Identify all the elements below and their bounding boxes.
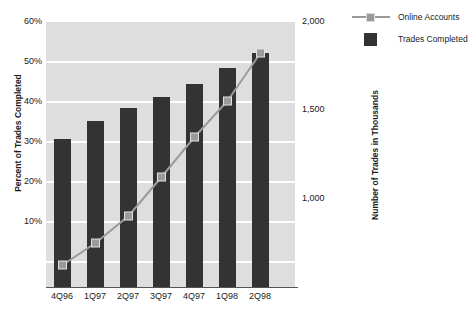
ytick-left-10: 10% [0,217,42,226]
chart-legend: Online Accounts Trades Completed [352,9,468,53]
line-markers [59,49,265,269]
y-axis-title-left: Percent of Trades Completed [13,63,23,203]
ytick-right-1500: 1,500 [302,105,348,114]
ytick-right-2000: 2,000 [302,17,348,26]
filled-square-icon [364,33,377,46]
legend-label-trades-completed: Trades Completed [398,34,468,44]
legend-key-line-marker [352,11,390,23]
online-accounts-line [46,22,295,287]
legend-key-bar-swatch [352,33,390,45]
ytick-left-60: 60% [0,17,42,26]
ytick-right-1000: 1,000 [302,194,348,203]
legend-item-online-accounts: Online Accounts [352,9,468,24]
y-axis-title-right: Number of Trades in Thousands [370,80,380,230]
line-path [63,53,261,265]
square-marker-icon [366,13,375,22]
x-axis-line [46,287,298,288]
legend-item-trades-completed: Trades Completed [352,31,468,46]
legend-label-online-accounts: Online Accounts [398,12,459,22]
xtick-2Q98: 2Q98 [239,292,281,301]
